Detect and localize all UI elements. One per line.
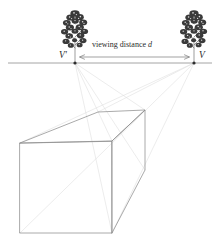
vanishing-point-right-label: V (199, 51, 205, 61)
construction-lines (20, 63, 194, 233)
box-top-face (20, 110, 145, 143)
construction-line-vleft-to-back-top-right (75, 63, 145, 110)
construction-line-vleft-to-front-bottom-right (75, 63, 112, 233)
box-right-face (112, 110, 145, 233)
perspective-diagram-figure: V' V viewing distance d (0, 0, 217, 246)
construction-line-vright-to-back-top-left (98, 63, 194, 112)
tree-right-foliage (180, 10, 207, 48)
viewing-distance-symbol: d (148, 40, 152, 49)
viewing-distance-text: viewing distance (92, 40, 148, 49)
construction-line-vleft-to-front-top-right (75, 63, 112, 141)
tree-left-foliage (61, 10, 88, 48)
viewing-distance-label: viewing distance d (92, 41, 152, 49)
viewing-distance-arrow (80, 55, 190, 59)
vanishing-point-left-label: V' (59, 51, 67, 61)
diagram-canvas (0, 0, 217, 246)
construction-line-vleft-to-back-bottom-right (75, 63, 145, 170)
construction-line-vright-to-front-bottom-left (20, 63, 194, 233)
construction-line-vright-to-front-bottom-right (112, 63, 194, 233)
